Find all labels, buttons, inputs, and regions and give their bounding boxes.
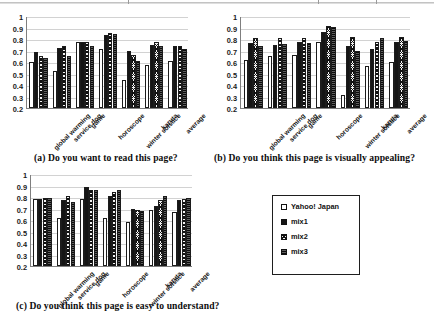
bar-mix1 xyxy=(346,46,350,108)
y-axis-tick-label: 0.4 xyxy=(218,83,237,90)
legend-item: Yahoo! Japan xyxy=(281,203,351,211)
bar-mix2 xyxy=(178,46,182,108)
bar-mix3 xyxy=(67,56,71,108)
x-axis-tick-label: horoscope xyxy=(117,112,146,141)
bar-yahoo-japan xyxy=(168,61,172,108)
y-axis-tick-label: 0.2 xyxy=(218,106,237,113)
bar-mix2 xyxy=(375,42,379,108)
bar-mix1 xyxy=(34,52,38,108)
bar-mix1 xyxy=(394,42,398,108)
bar-mix1 xyxy=(273,45,277,108)
bar-yahoo-japan xyxy=(53,71,57,108)
bar-mix3 xyxy=(380,38,384,108)
bar-mix3 xyxy=(307,43,311,108)
bar-yahoo-japan xyxy=(292,55,296,108)
figure-page: 10.90.80.70.60.50.40.30.2global warmings… xyxy=(0,0,434,321)
bar-mix1 xyxy=(173,46,177,108)
plot-area xyxy=(30,175,192,267)
bar-mix3 xyxy=(140,211,144,266)
y-axis-tick-label: 0.4 xyxy=(8,241,27,248)
top-rule-tick xyxy=(128,0,129,4)
bar-group xyxy=(124,175,147,266)
bar-mix3 xyxy=(258,46,262,108)
chart-caption: (c) Do you think this page is easy to un… xyxy=(16,300,219,311)
bar-mix1 xyxy=(80,42,84,108)
y-axis-tick-label: 0.2 xyxy=(8,264,27,271)
bar-mix1 xyxy=(38,199,42,266)
bar-mix3 xyxy=(355,51,359,109)
bar-group xyxy=(166,17,189,108)
bar-mix3 xyxy=(282,44,286,108)
y-axis-tick-label: 0.6 xyxy=(218,60,237,67)
bar-mix3 xyxy=(182,49,186,108)
bar-group xyxy=(27,17,50,108)
bar-yahoo-japan xyxy=(389,62,393,108)
y-axis-tick-label: 0.8 xyxy=(218,37,237,44)
y-axis-tick-label: 0.7 xyxy=(8,206,27,213)
bar-yahoo-japan xyxy=(316,42,320,108)
legend-item: mix2 xyxy=(281,233,351,241)
bar-mix1 xyxy=(84,187,88,266)
y-axis-tick-label: 0.3 xyxy=(218,94,237,101)
top-rule-tick xyxy=(376,0,377,4)
legend-label: mix2 xyxy=(291,233,308,241)
x-axis-tick-label: game xyxy=(89,112,106,129)
bar-mix2 xyxy=(326,26,330,108)
bar-yahoo-japan xyxy=(33,199,37,266)
bar-mix1 xyxy=(131,209,135,266)
bar-mix2 xyxy=(253,38,257,108)
y-axis-tick-label: 0.3 xyxy=(8,252,27,259)
bar-yahoo-japan xyxy=(103,218,107,266)
chart-caption: (a) Do you want to read this page? xyxy=(34,152,178,163)
bar-mix1 xyxy=(150,45,154,108)
bar-yahoo-japan xyxy=(29,62,33,108)
bar-group xyxy=(362,17,386,108)
bar-yahoo-japan xyxy=(80,199,84,266)
bar-mix3 xyxy=(331,27,335,108)
bar-yahoo-japan xyxy=(122,80,126,108)
bar-mix3 xyxy=(113,34,117,108)
bar-yahoo-japan xyxy=(149,210,153,266)
bar-mix3 xyxy=(136,61,140,108)
bar-group xyxy=(170,175,193,266)
y-axis-tick-label: 0.7 xyxy=(218,48,237,55)
x-axis-tick-label: average xyxy=(406,112,429,135)
bar-mix2 xyxy=(43,198,47,266)
bar-yahoo-japan xyxy=(172,212,176,266)
y-axis-tick-label: 0.8 xyxy=(4,37,23,44)
bar-mix2 xyxy=(89,190,93,266)
y-axis-tick-label: 0.7 xyxy=(4,48,23,55)
bar-mix2 xyxy=(112,192,116,266)
y-axis-tick-label: 0.8 xyxy=(8,195,27,202)
chart-legend: Yahoo! Japanmix1mix2mix3 xyxy=(272,195,360,275)
bar-mix2 xyxy=(108,33,112,108)
bar-group xyxy=(54,175,77,266)
bar-mix1 xyxy=(57,48,61,108)
legend-label: mix1 xyxy=(291,218,308,226)
bar-group xyxy=(314,17,338,108)
bar-yahoo-japan xyxy=(99,49,103,108)
bar-mix1 xyxy=(248,43,252,108)
bar-mix3 xyxy=(90,46,94,108)
bar-yahoo-japan xyxy=(268,56,272,108)
bar-yahoo-japan xyxy=(57,218,61,266)
bar-mix1 xyxy=(108,196,112,266)
y-axis-tick-label: 0.4 xyxy=(4,83,23,90)
y-axis-tick-label: 0.2 xyxy=(4,106,23,113)
bar-mix1 xyxy=(370,49,374,108)
bar-mix3 xyxy=(186,198,190,266)
bar-group xyxy=(387,17,411,108)
bar-mix2 xyxy=(302,38,306,108)
bar-group xyxy=(73,17,96,108)
hatched-square-icon xyxy=(281,234,287,240)
bar-mix1 xyxy=(104,35,108,108)
bar-group xyxy=(143,17,166,108)
y-axis-tick-label: 1 xyxy=(4,14,23,21)
bar-group xyxy=(120,17,143,108)
bar-group xyxy=(338,17,362,108)
bar-group xyxy=(290,17,314,108)
bar-mix2 xyxy=(131,55,135,108)
y-axis-tick-label: 1 xyxy=(8,172,27,179)
y-axis-tick-label: 0.6 xyxy=(8,218,27,225)
bar-yahoo-japan xyxy=(145,65,149,108)
